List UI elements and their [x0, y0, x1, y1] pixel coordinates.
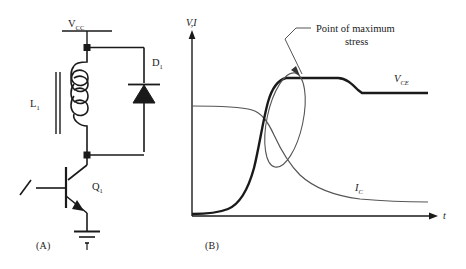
curve-label-ic: IC [354, 182, 364, 195]
diode-symbol [128, 85, 160, 153]
inductor-label: L1 [30, 98, 40, 111]
panel-label-b: (B) [205, 240, 219, 251]
x-axis-label: t [443, 210, 446, 221]
annotation-leader [285, 28, 311, 76]
ground-symbol [74, 232, 100, 251]
x-axis-arrowhead [429, 213, 438, 220]
inductor-coil [71, 51, 88, 152]
diode-label: D1 [152, 57, 163, 70]
bottom-junction-node [84, 152, 91, 159]
inductive-switching-figure: VCC L1 D1 [0, 0, 466, 269]
vcc-label: VCC [68, 18, 84, 31]
base-input-terminal [20, 180, 31, 195]
y-axis-arrowhead [189, 30, 196, 39]
panel-label-a: (A) [36, 240, 50, 251]
circuit-panel: VCC L1 D1 [20, 18, 163, 250]
y-axis-label: V,I [186, 17, 197, 28]
curve-label-vce: VCE [394, 73, 409, 86]
curve-ic [192, 106, 428, 202]
max-stress-annotation-line1: Point of maximum [316, 23, 395, 34]
waveform-panel: V,I t Point of maximum stress VCE IC [186, 17, 446, 221]
curve-vce [192, 78, 428, 214]
max-stress-annotation-line2: stress [345, 36, 368, 47]
inductor-core [56, 72, 60, 134]
transistor-symbol [36, 158, 87, 231]
transistor-label: Q1 [92, 181, 103, 194]
